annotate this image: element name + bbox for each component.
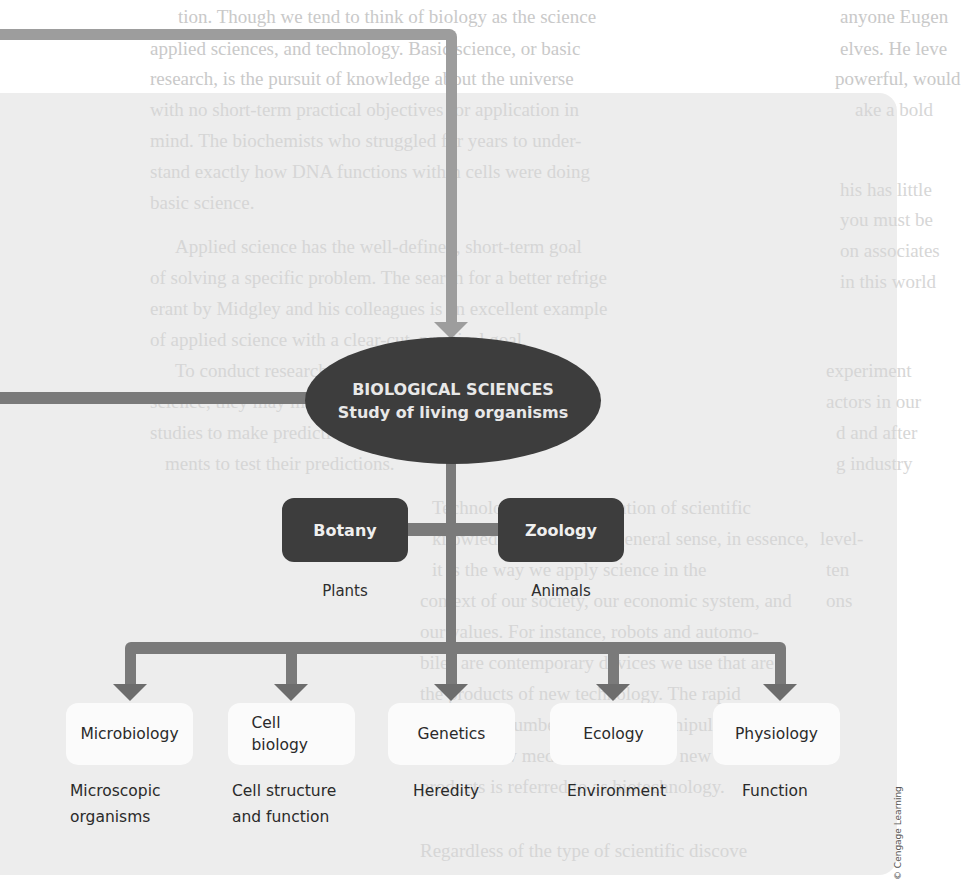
drop-microbiology: [125, 648, 136, 686]
background-text-line: elves. He leve: [840, 34, 947, 65]
background-text-line: powerful, would: [835, 64, 961, 95]
subfield-description-cell-biology: Cell structure and function: [232, 778, 352, 830]
branch-label: Botany: [313, 521, 376, 540]
arrow-down-icon: [274, 684, 308, 701]
arrow-down-icon: [763, 684, 797, 701]
top-connector-horizontal: [0, 29, 455, 40]
drop-cell-biology: [286, 648, 297, 686]
arrow-down-icon: [113, 684, 147, 701]
subfield-description-physiology: Function: [742, 778, 892, 804]
subfield-description-microbiology: Microscopic organisms: [70, 778, 180, 830]
branch-label: Zoology: [525, 521, 597, 540]
arrow-down-icon: [596, 684, 630, 701]
background-text-line: tion. Though we tend to think of biology…: [178, 2, 596, 33]
subfield-node-cell-biology: Cell biology: [228, 703, 355, 765]
root-node-biological-sciences: BIOLOGICAL SCIENCES Study of living orga…: [305, 337, 601, 464]
root-node-title: BIOLOGICAL SCIENCES: [352, 378, 554, 401]
branch-node-botany: Botany: [282, 498, 408, 562]
subfield-description-genetics: Heredity: [413, 778, 563, 804]
subfield-label: Physiology: [735, 723, 818, 745]
branch-node-zoology: Zoology: [498, 498, 624, 562]
subfield-label: Ecology: [583, 723, 644, 745]
left-connector: [0, 392, 312, 404]
branch-sublabel-plants: Plants: [282, 580, 408, 602]
subfield-label: Microbiology: [80, 723, 178, 745]
background-text-line: research, is the pursuit of knowledge ab…: [150, 64, 574, 95]
arrow-down-icon: [434, 684, 468, 701]
subfield-label: Genetics: [418, 723, 486, 745]
subfield-node-physiology: Physiology: [713, 703, 840, 765]
drop-ecology: [608, 648, 619, 686]
drop-physiology: [775, 648, 786, 686]
subfield-node-ecology: Ecology: [550, 703, 677, 765]
drop-genetics: [446, 648, 457, 686]
root-node-subtitle: Study of living organisms: [338, 401, 569, 424]
branch-crossbar: [406, 523, 500, 536]
branch-sublabel-animals: Animals: [498, 580, 624, 602]
subfield-node-microbiology: Microbiology: [66, 703, 193, 765]
copyright-notice: © Cengage Learning: [893, 786, 903, 880]
top-connector-vertical: [446, 29, 457, 325]
subfield-description-ecology: Environment: [567, 778, 717, 804]
subfield-node-genetics: Genetics: [388, 703, 515, 765]
background-text-line: anyone Eugen: [840, 2, 948, 33]
subfield-label: Cell biology: [252, 712, 312, 756]
root-stem: [446, 462, 456, 648]
